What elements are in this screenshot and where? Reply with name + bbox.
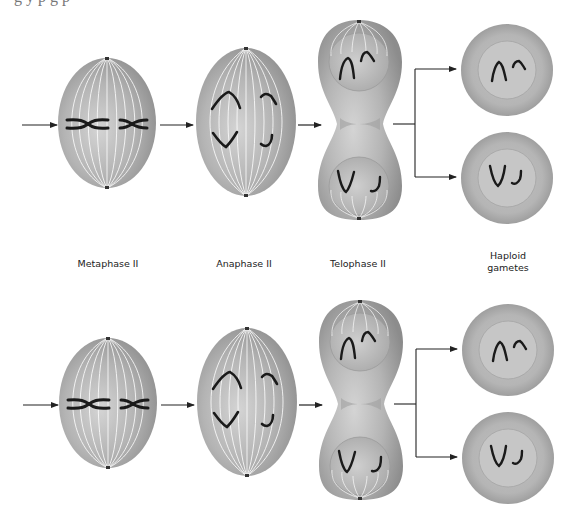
bottom-row <box>23 300 554 504</box>
label-metaphase-ii: Metaphase II <box>60 258 156 270</box>
label-haploid-gametes: Haploid gametes <box>460 250 556 274</box>
label-anaphase-ii: Anaphase II <box>196 258 292 270</box>
label-haploid-line1: Haploid <box>460 250 556 262</box>
label-telophase-ii: Telophase II <box>310 258 406 270</box>
top-row <box>22 20 553 224</box>
label-haploid-line2: gametes <box>460 262 556 274</box>
